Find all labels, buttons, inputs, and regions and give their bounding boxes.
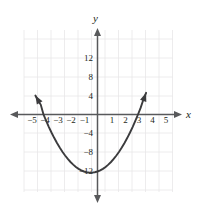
x-tick-label: 4	[150, 115, 155, 125]
y-tick-label: −8	[83, 147, 93, 157]
x-axis-label: x	[185, 108, 191, 120]
x-tick-label: 5	[164, 115, 169, 125]
curve-arrow-right	[140, 93, 146, 102]
y-tick-label: 4	[89, 91, 94, 101]
x-axis-arrow-left	[10, 111, 18, 118]
x-tick-label: −1	[80, 115, 90, 125]
y-axis	[94, 28, 101, 203]
x-tick-label: −3	[53, 115, 63, 125]
y-tick-label: 12	[84, 53, 93, 63]
graph-figure: −5 −4 −3 −2 −1 1 2 3 4 5 12 8 4 −4 −8 −1…	[0, 0, 201, 210]
x-tick-label: −2	[66, 115, 76, 125]
x-tick-label: 1	[110, 115, 115, 125]
y-axis-arrow-down	[94, 195, 101, 203]
y-axis-label: y	[92, 12, 98, 24]
y-axis-arrow-up	[94, 28, 101, 36]
parabola-plot: −5 −4 −3 −2 −1 1 2 3 4 5 12 8 4 −4 −8 −1…	[0, 0, 201, 210]
x-axis-arrow-right	[174, 111, 182, 118]
y-tick-label: 8	[89, 72, 94, 82]
x-tick-label: 2	[123, 115, 128, 125]
x-tick-label: −5	[27, 115, 37, 125]
y-tick-label: −4	[83, 128, 93, 138]
curve-arrow-left	[35, 96, 42, 105]
